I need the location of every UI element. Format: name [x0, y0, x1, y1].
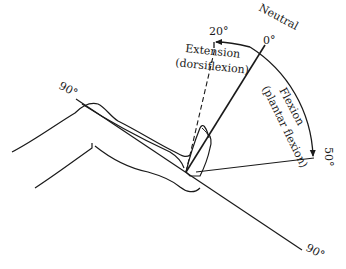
neutral-label: Neutral — [257, 1, 301, 33]
leg-lower-contour — [35, 143, 200, 192]
ankle-rom-diagram: Neutral 0° 20° Extension (dorsiflexion) … — [0, 0, 346, 269]
neutral-angle-label: 0° — [263, 34, 276, 47]
leg-angle-bottom-label: 90° — [304, 241, 327, 262]
flexion-angle-label: 50° — [322, 147, 335, 167]
extension-angle-label: 20° — [209, 25, 229, 38]
leg-axis-line — [76, 99, 302, 250]
range-arc — [250, 47, 313, 156]
leg-angle-top-label: 90° — [57, 79, 80, 100]
